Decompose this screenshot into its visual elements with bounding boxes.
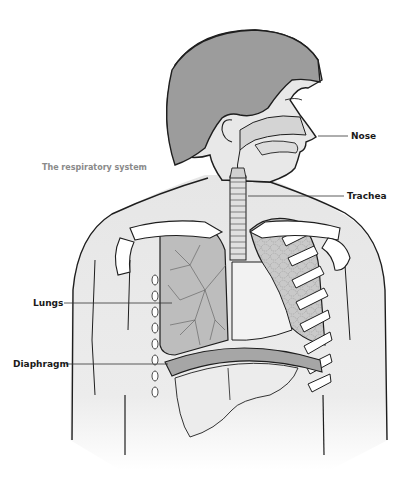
diagram-title: The respiratory system [42,163,147,173]
head [167,30,322,182]
label-lungs: Lungs [33,298,63,308]
lung-right [160,221,228,355]
trachea [230,168,246,260]
label-diaphragm: Diaphragm [13,359,69,369]
torso [70,175,388,470]
respiratory-system-illustration [0,0,405,483]
label-trachea: Trachea [347,191,387,201]
label-nose: Nose [351,131,376,141]
